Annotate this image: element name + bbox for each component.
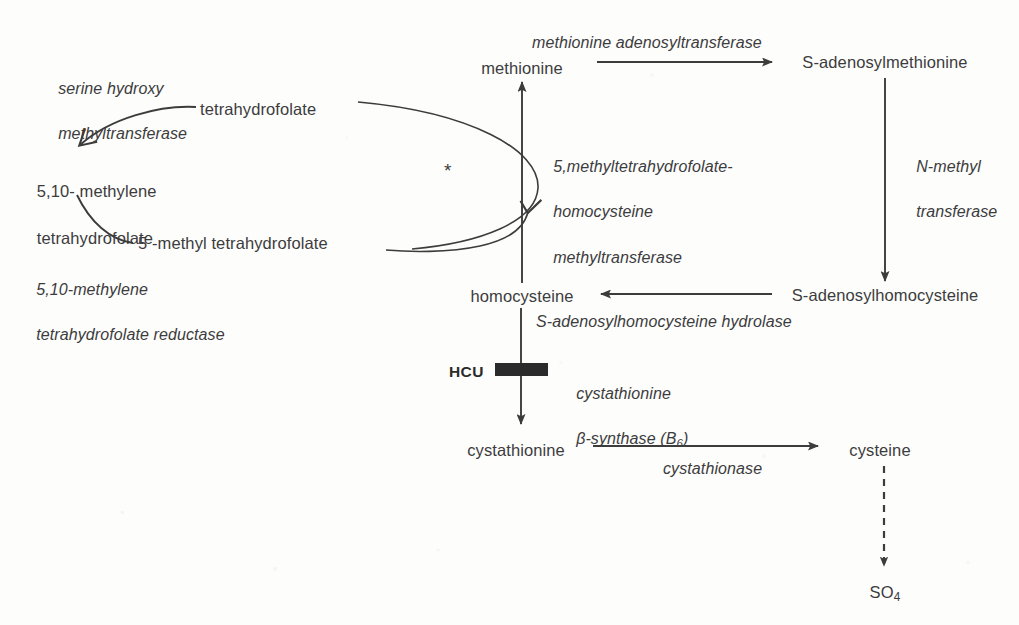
metabolite-homocysteine: homocysteine	[470, 285, 573, 308]
enzyme-mthfr-line2: tetrahydrofolate reductase	[36, 326, 225, 343]
enzyme-methionine-adenosyltransferase: methionine adenosyltransferase	[532, 32, 762, 55]
enzyme-ms-line2: homocysteine	[553, 203, 653, 220]
enzyme-shmt-line2: methyltransferase	[58, 125, 187, 142]
enzyme-cbs-line2-post: )	[683, 430, 688, 447]
metabolite-methyl-tetrahydrofolate: 5 -methyl tetrahydrofolate	[138, 232, 328, 255]
enzyme-mthfr: 5,10-methylene tetrahydrofolate reductas…	[18, 256, 225, 370]
enzyme-nmt-line1: N-methyl	[916, 158, 981, 175]
enzyme-nmt-line2: transferase	[916, 203, 997, 220]
enzyme-ms-line3: methyltransferase	[553, 249, 682, 266]
metabolite-methionine: methionine	[481, 57, 563, 80]
pathway-diagram: serine hydroxy methyltransferase tetrahy…	[0, 0, 1019, 625]
enzyme-ms-line1: 5,methyltetrahydrofolate-	[553, 158, 732, 175]
hcu-block-label: HCU	[449, 361, 484, 383]
enzyme-sah-hydrolase: S-adenosylhomocysteine hydrolase	[536, 311, 792, 334]
enzyme-serine-hydroxymethyltransferase: serine hydroxy methyltransferase	[40, 55, 187, 169]
loop-methyl-thf-to-methionine-curve-lower	[386, 212, 528, 251]
metabolite-sulfate-text: SO	[870, 583, 894, 601]
metabolite-cysteine: cysteine	[849, 439, 910, 462]
enzyme-cystathionase: cystathionase	[663, 458, 762, 481]
enzyme-cbs-line2-pre: β-synthase (B	[576, 430, 676, 447]
metabolite-methylene-thf-line2: tetrahydrofolate	[37, 229, 153, 247]
hcu-block-bar	[495, 363, 548, 376]
metabolite-sulfate-subscript: 4	[894, 590, 901, 604]
metabolite-sulfate: SO4	[870, 581, 901, 606]
enzyme-methionine-synthase: 5,methyltetrahydrofolate- homocysteine m…	[535, 133, 733, 292]
metabolite-s-adenosylmethionine: S-adenosylmethionine	[802, 51, 967, 74]
enzyme-shmt-line1: serine hydroxy	[58, 80, 163, 97]
enzyme-mthfr-line1: 5,10-methylene	[36, 281, 148, 298]
asterisk-annotation: *	[444, 158, 452, 185]
enzyme-cbs-line1: cystathionine	[576, 385, 671, 402]
enzyme-n-methyltransferase: N-methyl transferase	[898, 133, 997, 247]
metabolite-s-adenosylhomocysteine: S-adenosylhomocysteine	[792, 284, 979, 307]
metabolite-tetrahydrofolate: tetrahydrofolate	[200, 98, 316, 121]
metabolite-methylene-thf-line1: 5,10- methylene	[37, 182, 157, 200]
metabolite-cystathionine: cystathionine	[467, 439, 565, 462]
enzyme-cbs-line2: β-synthase (B6)	[576, 430, 688, 447]
